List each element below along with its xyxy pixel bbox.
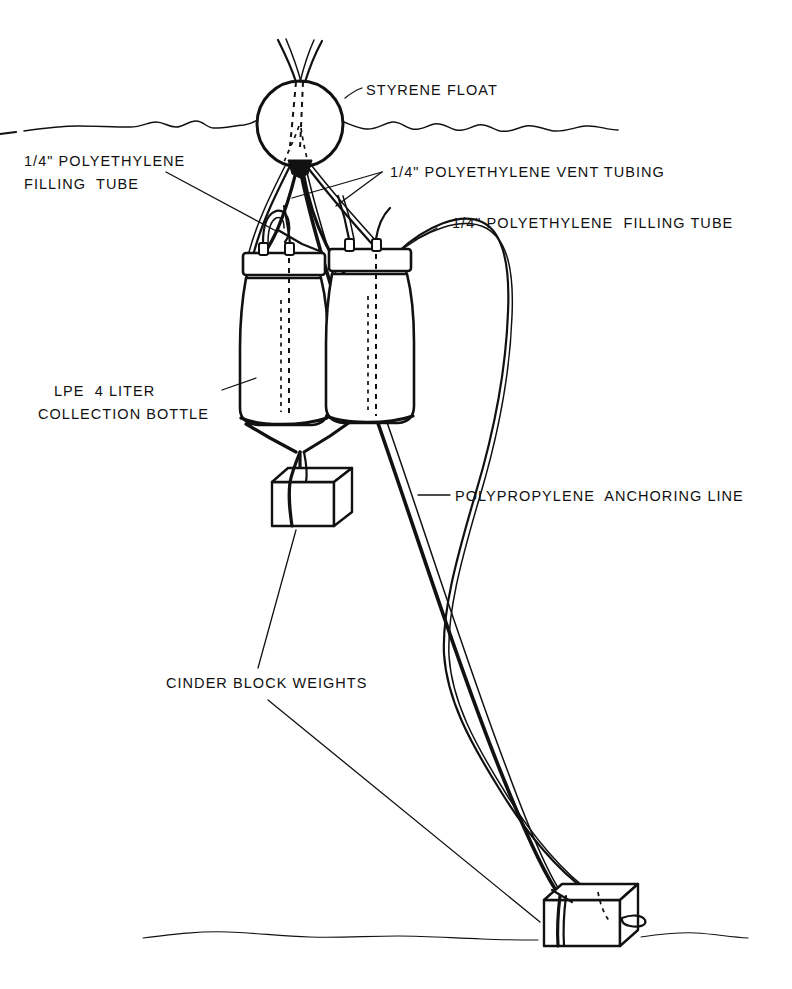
label-styrene-float: STYRENE FLOAT (366, 82, 498, 98)
bottle-left-fill-port (285, 243, 294, 255)
label-collection-bottle-line2: COLLECTION BOTTLE (38, 406, 209, 422)
label-filling-tube-right: 1/4" POLYETHYLENE FILLING TUBE (452, 215, 733, 231)
label-anchoring-line: POLYPROPYLENE ANCHORING LINE (455, 488, 744, 504)
label-vent-tubing: 1/4" POLYETHYLENE VENT TUBING (390, 164, 665, 180)
cinder-block-lower-front (544, 900, 620, 946)
label-filling-tube-left-line2: FILLING TUBE (24, 176, 139, 192)
sampling-apparatus-diagram: STYRENE FLOAT 1/4" POLYETHYLENE FILLING … (0, 0, 792, 989)
label-filling-tube-left-line1: 1/4" POLYETHYLENE (24, 153, 185, 169)
collection-bottle-right (326, 239, 414, 423)
collection-bottle-left (240, 243, 328, 425)
bottle-right-cap (329, 249, 411, 271)
bottle-left-cap (243, 253, 325, 275)
float-body (257, 81, 343, 167)
bottle-right-body (326, 274, 414, 423)
bottle-right-vent-port (345, 239, 354, 251)
diagram-canvas: STYRENE FLOAT 1/4" POLYETHYLENE FILLING … (0, 0, 792, 989)
bottle-right-fill-port (372, 239, 381, 251)
bottle-left-body (240, 278, 328, 425)
bottle-left-vent-port (259, 243, 268, 255)
cinder-block-lower (544, 884, 645, 946)
cinder-block-upper-front (272, 482, 334, 526)
label-collection-bottle-line1: LPE 4 LITER (54, 383, 155, 399)
label-cinder-block-weights: CINDER BLOCK WEIGHTS (166, 675, 367, 691)
